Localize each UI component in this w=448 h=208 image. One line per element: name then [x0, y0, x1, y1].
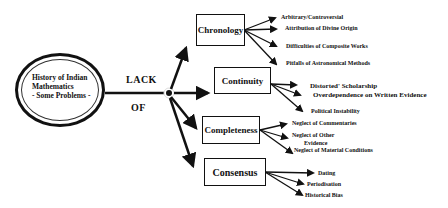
center-line-1: History of Indian	[32, 73, 102, 82]
category-chronology: Chronology	[196, 14, 245, 46]
leaf-astronomical-methods: Pitfalls of Astronomical Methods	[286, 60, 370, 67]
center-line-2: Mathematics	[32, 82, 102, 91]
connector-label-of: OF	[131, 102, 146, 113]
leaf-written-evidence: Overdependence on Written Evidence	[313, 91, 426, 99]
leaf-dating: Dating	[318, 170, 335, 177]
leaf-composite-works: Difficulties of Composite Works	[286, 43, 368, 50]
leaf-political-instability: Political Instability	[311, 108, 360, 115]
leaf-arbitrary: Arbitrary/Controversial	[281, 14, 343, 21]
leaf-distorted-scholarship: Distorted' Scholarship	[310, 82, 377, 90]
leaf-historical-bias: Historical Bias	[305, 192, 343, 199]
leaf-other-evidence: Neglect of Other	[292, 132, 334, 139]
leaf-periodisation: Periodisation	[307, 181, 341, 188]
connector-label-lack: LACK	[126, 74, 157, 85]
center-line-3: - Some Problems -	[32, 91, 102, 100]
leaf-divine-origin: Attribution of Divine Origin	[285, 25, 358, 32]
leaf-commentaries: Neglect of Commentaries	[292, 120, 357, 127]
center-topic-text: History of Indian Mathematics - Some Pro…	[32, 73, 102, 100]
leaf-material-conditions: Neglect of Material Conditions	[294, 147, 373, 154]
category-consensus: Consensus	[204, 158, 266, 186]
leaf-other-evidence-cont: Evidence	[304, 140, 327, 147]
category-completeness: Completeness	[202, 116, 260, 144]
category-continuity: Continuity	[214, 67, 271, 94]
